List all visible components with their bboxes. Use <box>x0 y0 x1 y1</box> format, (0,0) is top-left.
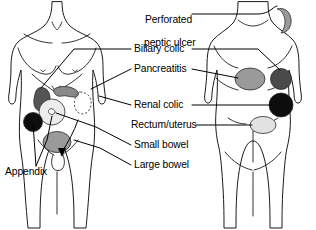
large-bowel-marker <box>43 132 71 153</box>
biliary-colic-marker-back <box>271 69 292 90</box>
label-perforated-peptic-ulcer-line1: Perforated <box>145 14 192 25</box>
label-appendix: Appendix <box>5 166 47 177</box>
label-large-bowel: Large bowel <box>134 159 189 170</box>
referred-pain-diagram: Perforated peptic ulcer Biliary colic Pa… <box>0 0 316 230</box>
pancreatitis-marker-back <box>235 68 265 90</box>
rectum-uterus-marker-back <box>250 117 276 134</box>
renal-colic-marker-back <box>269 93 293 117</box>
label-pancreatitis: Pancreatitis <box>134 63 187 74</box>
label-rectum-uterus: Rectum/uterus <box>131 119 197 130</box>
label-biliary-colic: Biliary colic <box>134 43 184 54</box>
label-small-bowel: Small bowel <box>134 139 188 150</box>
front-genital-detail <box>52 155 65 171</box>
small-bowel-inner-spot <box>49 109 56 115</box>
front-torso-figure <box>9 2 106 228</box>
label-renal-colic: Renal colic <box>134 99 183 110</box>
back-torso-figure <box>205 2 302 228</box>
